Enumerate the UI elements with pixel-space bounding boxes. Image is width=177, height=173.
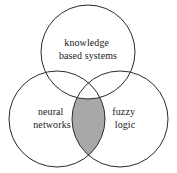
- venn-diagram-canvas: knowledge based systems neural networks …: [0, 0, 177, 173]
- label-neural-networks-line1: neural: [38, 106, 64, 117]
- label-fuzzy-logic: fuzzy logic: [112, 106, 137, 130]
- label-neural-networks: neural networks: [33, 106, 70, 130]
- label-knowledge-based-systems-line2: based systems: [59, 50, 117, 61]
- label-neural-networks-line2: networks: [33, 119, 70, 130]
- venn-diagram: knowledge based systems neural networks …: [0, 0, 177, 173]
- label-fuzzy-logic-line2: logic: [115, 119, 136, 130]
- label-knowledge-based-systems: knowledge based systems: [59, 37, 117, 61]
- label-fuzzy-logic-line1: fuzzy: [112, 106, 135, 117]
- label-knowledge-based-systems-line1: knowledge: [64, 37, 109, 48]
